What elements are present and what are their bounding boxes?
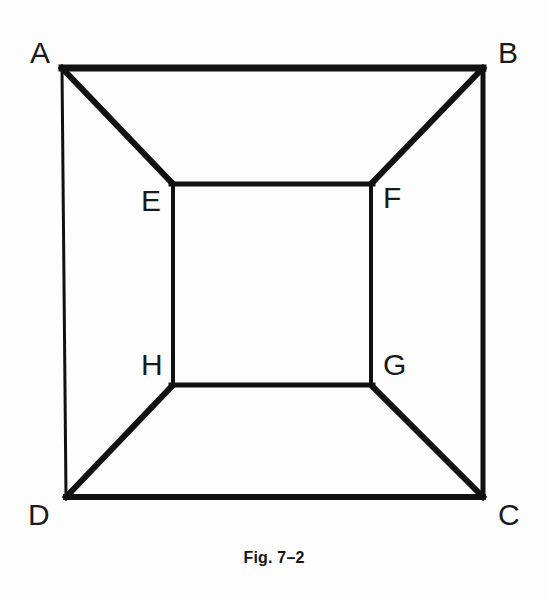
edge-cg [371, 385, 483, 497]
vertex-label-a: A [30, 38, 50, 68]
edge-ad [62, 68, 66, 497]
vertex-label-h: H [141, 350, 163, 380]
vertex-label-g: G [383, 350, 406, 380]
edge-ae [62, 68, 173, 184]
vertex-label-b: B [498, 38, 518, 68]
figure-caption: Fig. 7–2 [0, 549, 548, 567]
vertex-label-f: F [383, 183, 401, 213]
edge-bf [371, 68, 483, 184]
geometry-diagram [0, 0, 548, 599]
edge-dh [66, 385, 173, 497]
vertex-label-d: D [28, 500, 50, 530]
figure-container: A B C D E F G H Fig. 7–2 [0, 0, 548, 599]
vertex-label-c: C [498, 500, 520, 530]
vertex-label-e: E [141, 186, 161, 216]
